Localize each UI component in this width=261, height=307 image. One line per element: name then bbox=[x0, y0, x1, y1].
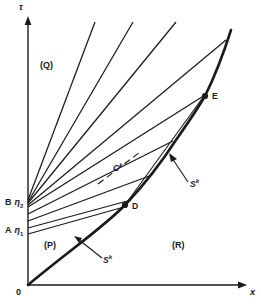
point-marker-e bbox=[202, 93, 208, 99]
leader-arrowhead-shock-upper bbox=[169, 153, 177, 162]
point-label-d: D bbox=[132, 202, 138, 211]
leader-line-shock-upper bbox=[172, 158, 188, 182]
state-a-subscript: 1 bbox=[20, 231, 23, 237]
curve-label-shock-lower: Sk bbox=[103, 254, 112, 264]
characteristic-ray-b0 bbox=[28, 95, 205, 207]
shock-curve-main bbox=[28, 30, 231, 285]
leader-line-shock-lower bbox=[78, 239, 102, 258]
curve-label-contact: Ck bbox=[113, 162, 122, 172]
characteristic-ray-b3 bbox=[28, 22, 133, 202]
characteristic-ray-a3 bbox=[28, 141, 173, 214]
point-marker-d bbox=[122, 202, 128, 208]
region-label-p: (P) bbox=[44, 241, 56, 250]
curve-contact-superscript: k bbox=[119, 162, 122, 168]
curve-shock-lower-superscript: k bbox=[109, 254, 112, 260]
leader-shock-lower bbox=[74, 236, 102, 258]
region-label-r: (R) bbox=[172, 241, 185, 250]
state-label-a: Aη1 bbox=[5, 226, 23, 237]
characteristic-ray-b2 bbox=[28, 22, 176, 203]
axis-group bbox=[25, 16, 247, 288]
characteristic-ray-a2 bbox=[28, 175, 152, 221]
state-b-subscript: 2 bbox=[20, 203, 23, 209]
curve-shock-upper-superscript: k bbox=[196, 178, 199, 184]
tau-axis-label: τ bbox=[19, 3, 23, 12]
figure-canvas: τ x 0 (Q) (P) (R) Bη2 Aη1 D E Sk Sk Ck bbox=[0, 0, 261, 307]
curve-label-shock-upper: Sk bbox=[190, 178, 199, 188]
diagram-vector-layer bbox=[0, 0, 261, 307]
characteristic-ray-b4 bbox=[28, 22, 95, 200]
x-axis-arrowhead bbox=[238, 282, 247, 289]
tau-axis-arrowhead bbox=[25, 16, 32, 25]
point-label-e: E bbox=[212, 92, 218, 101]
x-axis-label: x bbox=[250, 288, 255, 297]
state-b-point: B bbox=[5, 197, 12, 207]
state-a-point: A bbox=[5, 225, 12, 235]
state-label-b: Bη2 bbox=[5, 198, 23, 209]
region-label-q: (Q) bbox=[40, 61, 53, 70]
leader-shock-upper bbox=[169, 153, 188, 182]
origin-label: 0 bbox=[16, 288, 21, 297]
